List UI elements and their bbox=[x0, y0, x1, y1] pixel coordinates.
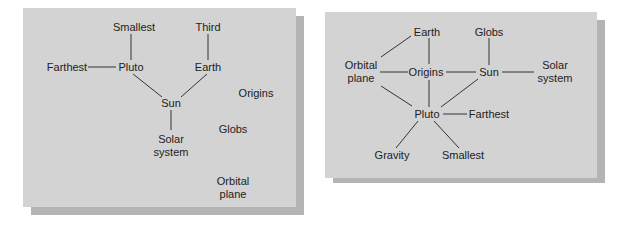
left-node-farthest: Farthest bbox=[47, 61, 87, 74]
right-node-farthest: Farthest bbox=[469, 108, 509, 121]
right-node-solar: Solar system bbox=[538, 59, 573, 85]
left-node-globs: Globs bbox=[219, 123, 248, 136]
left-node-third: Third bbox=[195, 21, 220, 34]
left-node-sun: Sun bbox=[161, 97, 181, 110]
connection-lines bbox=[0, 0, 625, 225]
right-node-smallest: Smallest bbox=[442, 149, 484, 162]
left-edge bbox=[133, 74, 162, 97]
left-edge bbox=[181, 74, 207, 97]
right-node-origins: Origins bbox=[409, 66, 444, 79]
left-node-pluto: Pluto bbox=[118, 61, 143, 74]
right-edge bbox=[441, 79, 478, 107]
left-node-earth: Earth bbox=[195, 61, 221, 74]
left-node-orbital: Orbital plane bbox=[217, 175, 249, 201]
right-edge bbox=[434, 121, 459, 148]
right-edge bbox=[381, 86, 412, 106]
left-node-smallest: Smallest bbox=[113, 21, 155, 34]
right-node-orbital: Orbital plane bbox=[345, 59, 377, 85]
right-node-globs: Globs bbox=[475, 26, 504, 39]
right-node-pluto: Pluto bbox=[414, 108, 439, 121]
left-node-solar: Solar system bbox=[154, 133, 189, 159]
right-edge bbox=[381, 36, 411, 57]
right-edge bbox=[396, 121, 418, 148]
right-node-sun: Sun bbox=[479, 66, 499, 79]
right-node-earth: Earth bbox=[414, 26, 440, 39]
left-node-origins: Origins bbox=[239, 87, 274, 100]
right-node-gravity: Gravity bbox=[375, 149, 410, 162]
